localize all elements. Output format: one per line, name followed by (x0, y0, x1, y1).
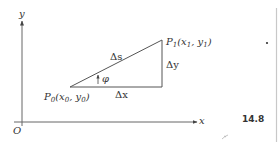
delta-x-label: Δx (115, 89, 128, 100)
pencil-mark (222, 135, 228, 139)
delta-y-label: Δy (166, 59, 179, 70)
phi-label: φ (102, 73, 109, 84)
figure-number: 14.8 (242, 114, 264, 124)
y-axis-label: y (18, 8, 25, 19)
p1-label: P1(x1, y1) (165, 36, 212, 49)
margin-dot (266, 42, 268, 44)
p0-label: P0(x0, y0) (43, 91, 90, 104)
diagram-canvas: y x O Δs Δx Δy φ P0(x0, y0) P1(x1, y1) 1… (0, 0, 280, 142)
x-axis-label: x (199, 115, 205, 126)
hypotenuse-line (70, 40, 162, 87)
origin-label: O (13, 125, 21, 136)
delta-s-label: Δs (110, 51, 122, 62)
